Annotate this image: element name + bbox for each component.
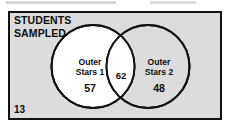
scan-artifact-right [150, 1, 196, 4]
set-label-right: Outer Stars 2 [131, 57, 187, 77]
universal-set-outside-count: 13 [14, 104, 25, 115]
venn-diagram-figure: STUDENTS SAMPLED Outer Stars 1 Outer Sta… [0, 0, 238, 130]
set-count-intersection: 62 [106, 70, 136, 81]
universal-set-label: STUDENTS SAMPLED [14, 14, 94, 39]
scan-artifact-left [6, 1, 116, 4]
set-count-left-only: 57 [67, 82, 113, 94]
set-count-right-only: 48 [136, 82, 182, 94]
